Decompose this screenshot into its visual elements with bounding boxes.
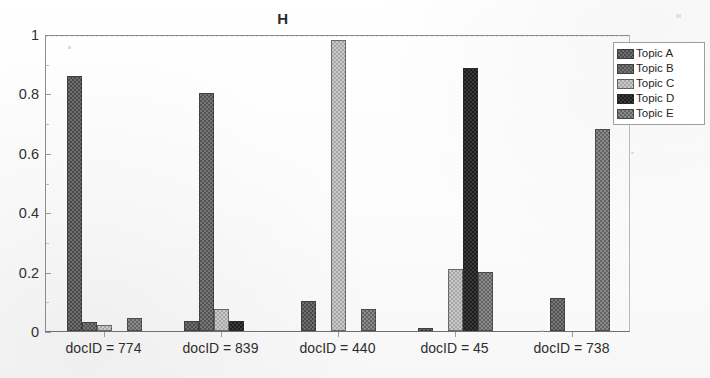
y-axis-tick-mark bbox=[45, 332, 51, 333]
x-axis-group-label: docID = 839 bbox=[183, 340, 259, 356]
bar bbox=[550, 298, 565, 331]
bar-group bbox=[397, 36, 514, 331]
legend-item-label: Topic B bbox=[636, 63, 674, 74]
y-axis-tick-label: 0.4 bbox=[3, 205, 39, 221]
bar bbox=[448, 269, 463, 331]
bars-layer bbox=[46, 36, 629, 331]
legend-item[interactable]: Topic E bbox=[617, 106, 701, 121]
legend-swatch-icon bbox=[617, 94, 634, 104]
bar bbox=[463, 68, 478, 331]
bar-group bbox=[280, 36, 397, 331]
bar bbox=[478, 272, 493, 331]
y-axis-tick-label: 0.2 bbox=[3, 265, 39, 281]
legend-item-label: Topic D bbox=[636, 93, 674, 104]
bar bbox=[418, 328, 433, 331]
legend-swatch-icon bbox=[617, 49, 634, 59]
legend-swatch-icon bbox=[617, 79, 634, 89]
bar-chart-figure: H 00.20.40.60.81 docID = 774docID = 839d… bbox=[0, 0, 710, 378]
x-axis-group-label: docID = 440 bbox=[300, 340, 376, 356]
bar-group bbox=[163, 36, 280, 331]
x-axis-group-label: docID = 45 bbox=[420, 340, 488, 356]
legend-item-label: Topic E bbox=[636, 108, 674, 119]
y-axis-tick-label: 0.6 bbox=[3, 146, 39, 162]
x-axis-group-label: docID = 738 bbox=[534, 340, 610, 356]
bar bbox=[127, 318, 142, 331]
bar bbox=[361, 309, 376, 331]
chart-title-text: H bbox=[277, 10, 288, 27]
y-axis-tick-label: 0.8 bbox=[3, 86, 39, 102]
x-axis-tick-mark bbox=[221, 332, 222, 337]
bar bbox=[331, 40, 346, 331]
legend-item-label: Topic A bbox=[636, 48, 673, 59]
bar bbox=[229, 321, 244, 331]
legend[interactable]: Topic ATopic BTopic CTopic DTopic E bbox=[613, 42, 705, 125]
bar bbox=[595, 129, 610, 331]
x-axis-tick-mark bbox=[455, 332, 456, 337]
legend-item[interactable]: Topic A bbox=[617, 46, 701, 61]
x-axis-group-label: docID = 774 bbox=[66, 340, 142, 356]
bar bbox=[199, 93, 214, 331]
bar-group bbox=[46, 36, 163, 331]
bar bbox=[82, 322, 97, 331]
bar bbox=[184, 321, 199, 331]
bar bbox=[97, 325, 112, 331]
x-axis-tick-mark bbox=[572, 332, 573, 337]
chart-title: H bbox=[0, 10, 710, 27]
x-axis-tick-mark bbox=[104, 332, 105, 337]
x-axis-tick-mark bbox=[338, 332, 339, 337]
y-axis-tick-label: 1 bbox=[3, 27, 39, 43]
legend-swatch-icon bbox=[617, 109, 634, 119]
bar bbox=[301, 301, 316, 331]
y-axis-tick-label: 0 bbox=[3, 324, 39, 340]
legend-item[interactable]: Topic C bbox=[617, 76, 701, 91]
plot-area bbox=[45, 35, 630, 332]
legend-item[interactable]: Topic D bbox=[617, 91, 701, 106]
bar bbox=[214, 309, 229, 331]
legend-item-label: Topic C bbox=[636, 78, 674, 89]
legend-swatch-icon bbox=[617, 64, 634, 74]
scan-speck bbox=[631, 152, 634, 154]
bar bbox=[67, 76, 82, 331]
legend-item[interactable]: Topic B bbox=[617, 61, 701, 76]
